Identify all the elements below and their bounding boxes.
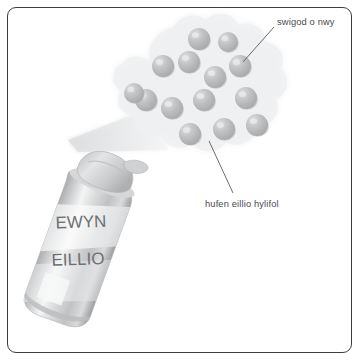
gas-bubble-highlight [165,101,172,107]
gas-bubble [246,114,268,136]
gas-bubble [229,55,251,77]
gas-bubble [204,66,226,88]
gas-bubble-highlight [127,87,134,92]
can-brand-line-2: EILLIO [51,249,105,270]
gas-bubble-highlight [156,59,163,65]
annotation-label-gas: swigod o nwy [277,17,335,27]
gas-bubble-highlight [217,122,224,128]
can-brand-line-1: EWYN [55,212,107,233]
gas-bubble-highlight [208,70,215,76]
gas-bubble [213,118,235,140]
annotation-label-liquid: hufen eillio hylifol [205,199,279,209]
gas-bubble-highlight [182,55,189,61]
gas-bubble [161,97,183,119]
gas-bubble [152,55,174,77]
gas-bubble [218,32,238,52]
diagram-artwork: EWYN EILLIO [0,0,362,363]
gas-bubble [193,89,215,111]
gas-bubble-highlight [197,93,204,99]
gas-bubble-highlight [250,118,257,124]
gas-bubble-highlight [239,91,246,97]
gas-bubble-highlight [192,32,199,38]
gas-bubble-highlight [233,59,240,65]
aerosol-can: EWYN EILLIO [19,139,150,333]
gas-bubble-highlight [183,127,190,133]
gas-bubble [188,28,210,50]
gas-bubble [179,123,201,145]
leader-line-liquid [209,141,233,193]
figure-container: EWYN EILLIO swigod o nwy hufen eillio hy… [0,0,362,363]
gas-bubble [235,87,257,109]
gas-bubble [178,51,200,73]
gas-bubble [124,83,144,103]
gas-bubble-highlight [221,36,228,41]
